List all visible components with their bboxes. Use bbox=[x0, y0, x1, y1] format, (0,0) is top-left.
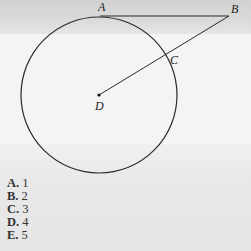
point-label-b: B bbox=[231, 3, 238, 15]
point-label-d: D bbox=[95, 100, 104, 112]
segment-db bbox=[99, 16, 229, 95]
center-point-d bbox=[97, 93, 100, 96]
answer-choices: A. 1 B. 2 C. 3 D. 4 E. 5 bbox=[7, 177, 29, 242]
point-label-a: A bbox=[98, 1, 105, 13]
point-label-c: C bbox=[170, 54, 178, 66]
geometry-figure bbox=[0, 0, 251, 251]
choice-e[interactable]: E. 5 bbox=[7, 229, 29, 242]
